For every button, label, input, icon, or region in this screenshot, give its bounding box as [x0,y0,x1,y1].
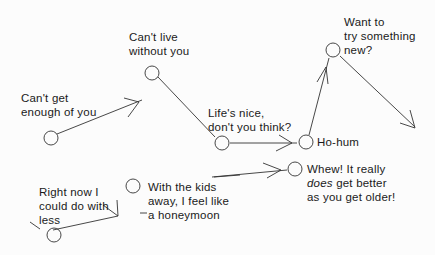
stage-label-8: Whew! It really does get better as you g… [307,162,395,204]
label-line: With the kids [148,180,229,194]
label-line: without you [129,44,189,58]
emphasis-word: does [307,177,333,189]
label-line: Ho-hum [317,135,359,149]
stage-node-1 [44,131,58,145]
stage-label-3: Life's nice, don't you think? [208,106,291,134]
label-line: Can't get [21,91,97,105]
stage-label-1: Can't get enough of you [21,91,97,119]
label-line: Life's nice, [208,106,291,120]
label-line: away, I feel like [148,194,229,208]
label-line: try something [344,29,416,43]
stage-label-6: Right now I could do with less [39,185,109,227]
stage-node-3 [215,136,229,150]
label-line: Can't live [129,30,189,44]
label-line: Want to [344,15,416,29]
label-line: Right now I [39,185,109,199]
label-line: as you get older! [307,190,395,204]
relationship-stages-diagram: Can't get enough of you Can't live witho… [0,0,435,255]
label-line: new? [344,43,416,57]
label-line: Whew! It really [307,162,395,176]
label-line: a honeymoon [148,208,229,222]
label-line: does get better [307,176,395,190]
stage-node-2 [145,66,159,80]
stage-label-5: Want to try something new? [344,15,416,57]
label-line: don't you think? [208,120,291,134]
stage-node-5 [326,43,340,57]
stage-label-4: Ho-hum [317,135,359,149]
stage-node-4 [299,135,313,149]
stage-node-7 [126,179,140,193]
label-line: less [39,213,109,227]
label-line: enough of you [21,105,97,119]
stage-label-7: With the kids away, I feel like a honeym… [148,180,229,222]
stage-label-2: Can't live without you [129,30,189,58]
label-line: could do with [39,199,109,213]
connector-5-out [340,56,415,127]
stage-node-8 [288,162,302,176]
arrowhead-icon [124,98,139,117]
